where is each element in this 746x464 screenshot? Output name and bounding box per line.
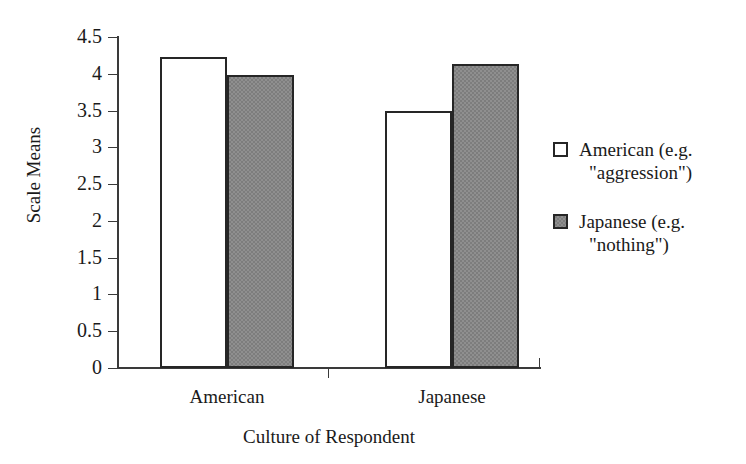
legend-label-line1: Japanese (e.g. — [579, 210, 746, 233]
bar-american-american — [160, 57, 227, 368]
legend-swatch-icon — [553, 214, 568, 229]
y-axis-tick-label: 3.5 — [40, 100, 102, 120]
bar-japanese-american — [385, 111, 452, 368]
bar-chart-figure: Scale Means 00.511.522.533.544.5 America… — [0, 0, 746, 464]
y-axis-tick-label: 2.5 — [40, 173, 102, 193]
legend-swatch-icon — [553, 142, 568, 157]
x-axis-title: Culture of Respondent — [117, 426, 541, 448]
legend-label-line2: "aggression") — [579, 161, 746, 184]
y-axis-tick-label: 2 — [40, 210, 102, 230]
x-axis-category-japanese: Japanese — [372, 386, 532, 408]
y-axis-tick-label: 1.5 — [40, 247, 102, 267]
x-axis-tick — [328, 369, 329, 378]
legend-label-line2: "nothing") — [579, 233, 746, 256]
bar-american-japanese — [227, 75, 294, 368]
y-axis-tick-label: 4.5 — [40, 26, 102, 46]
y-axis-tick-label: 0 — [40, 357, 102, 377]
x-axis-category-american: American — [147, 386, 307, 408]
y-axis-tick-label: 4 — [40, 63, 102, 83]
y-axis-tick — [108, 368, 118, 369]
y-axis-tick-label: 3 — [40, 136, 102, 156]
legend-item-american[interactable]: American (e.g."aggression") — [553, 138, 746, 184]
y-axis-tick-label: 0.5 — [40, 320, 102, 340]
chart-legend: American (e.g."aggression")Japanese (e.g… — [553, 138, 746, 282]
y-axis-tick-label: 1 — [40, 283, 102, 303]
legend-label-line1: American (e.g. — [579, 138, 746, 161]
bar-japanese-japanese — [452, 64, 519, 368]
plot-area — [117, 37, 540, 368]
legend-item-japanese[interactable]: Japanese (e.g."nothing") — [553, 210, 746, 256]
